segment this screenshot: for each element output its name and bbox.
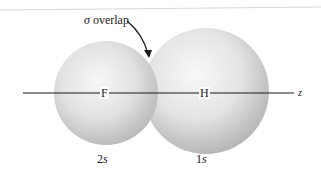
arrow-head-icon [144,50,152,58]
top-rule [0,7,321,10]
atom-label-h: H [199,87,210,99]
diagram-canvas [0,0,321,183]
atom-label-f: F [100,87,109,99]
overlap-label: σ overlap [84,14,129,26]
orbital-overlap-diagram: σ overlap F H z 2s 1s [0,0,321,183]
orbital-label-2s: 2s [97,153,108,165]
orbital-label-1s: 1s [196,153,207,165]
overlap-text: overlap [93,13,129,27]
sigma-symbol: σ [84,13,90,27]
orbital-letter: s [103,152,108,166]
orbital-letter: s [202,152,207,166]
z-axis-label: z [298,87,302,99]
